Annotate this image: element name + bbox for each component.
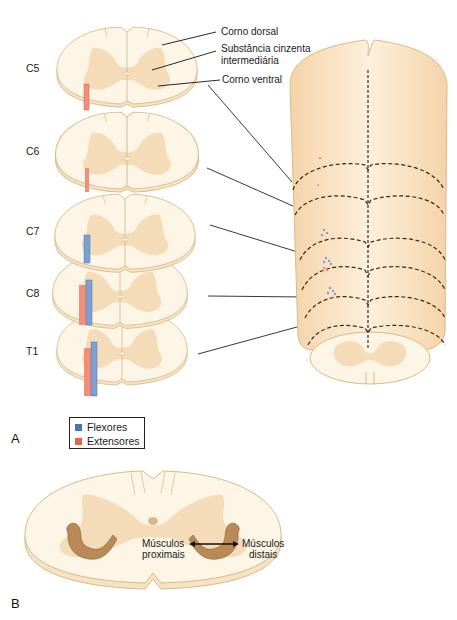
legend-item-extensors: Extensores bbox=[75, 434, 140, 448]
spinal-cord-figure: C5 C6 C7 C8 T1 Corno dorsal Substância c… bbox=[0, 0, 457, 620]
label-proximal-muscles-2: proximais bbox=[142, 549, 185, 560]
extensor-swatch-icon bbox=[75, 438, 82, 445]
segment-label-c6: C6 bbox=[26, 145, 40, 157]
section-panel-b bbox=[25, 471, 281, 589]
segment-label-c5: C5 bbox=[26, 62, 40, 74]
panel-label-b: B bbox=[11, 596, 20, 611]
flexor-swatch-icon bbox=[75, 424, 82, 431]
legend-label-flexors: Flexores bbox=[87, 421, 127, 433]
label-intermediate-gray-1: Substância cinzenta bbox=[221, 43, 311, 54]
legend-label-extensors: Extensores bbox=[87, 435, 140, 447]
panel-label-a: A bbox=[11, 431, 20, 446]
label-intermediate-gray-2: intermediária bbox=[221, 55, 279, 66]
section-c5 bbox=[57, 27, 197, 107]
longitudinal-cord bbox=[290, 40, 447, 384]
label-ventral-horn: Corno ventral bbox=[222, 74, 282, 85]
section-c7 bbox=[55, 194, 195, 272]
legend-item-flexors: Flexores bbox=[75, 420, 127, 434]
segment-label-t1: T1 bbox=[26, 345, 38, 357]
label-distal-muscles-1: Músculos bbox=[242, 538, 284, 549]
section-c6 bbox=[56, 112, 199, 192]
segment-label-c8: C8 bbox=[26, 287, 40, 299]
legend: Flexores Extensores bbox=[69, 417, 145, 449]
label-distal-muscles-2: distais bbox=[249, 549, 277, 560]
segment-label-c7: C7 bbox=[26, 225, 40, 237]
label-proximal-muscles-1: Músculos bbox=[142, 538, 184, 549]
label-dorsal-horn: Corno dorsal bbox=[221, 26, 278, 37]
